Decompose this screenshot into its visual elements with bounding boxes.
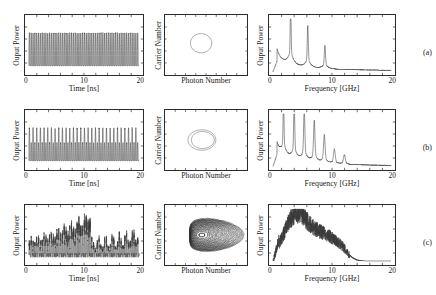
- y-axis-label: Ouput Power: [254, 109, 266, 171]
- panel-label-b: (b): [423, 143, 432, 152]
- plot-area: [268, 14, 396, 76]
- y-axis-label: Ouput Power: [10, 204, 22, 266]
- y-axis-label: Ouput Power: [254, 204, 266, 266]
- x-axis-title: Time [ns]: [24, 84, 144, 93]
- plot-area: [24, 14, 144, 76]
- x-axis-title: Time [ns]: [24, 179, 144, 188]
- panel-label-a: (a): [423, 48, 432, 57]
- x-axis: Photon Number: [164, 171, 248, 189]
- plot-area: [164, 204, 248, 266]
- x-axis: 0 10 20 Frequency [GHz]: [268, 76, 396, 94]
- x-axis: 0 10 20 Time [ns]: [24, 266, 144, 284]
- x-axis: Photon Number: [164, 76, 248, 94]
- x-axis: 0 10 20 Time [ns]: [24, 76, 144, 94]
- figure-panel-grid: Ouput Power 0 10 20 Time [ns] Carrier Nu…: [0, 0, 436, 295]
- rf-spectrum-plot-a: Ouput Power 0 10 20 Frequency [GHz]: [252, 8, 400, 103]
- time-series-plot-b: Ouput Power 0 10 20 Time [ns]: [8, 103, 148, 198]
- x-axis-title: Frequency [GHz]: [268, 84, 396, 93]
- x-axis: 0 10 20 Time [ns]: [24, 171, 144, 189]
- x-axis: 0 10 20 Frequency [GHz]: [268, 266, 396, 284]
- rf-spectrum-plot-c: Ouput Power 0 10 20 Frequency [GHz]: [252, 198, 400, 293]
- phase-portrait-plot-b: Carrier Number Photon Number: [150, 103, 250, 198]
- plot-area: [164, 14, 248, 76]
- x-axis: 0 10 20 Frequency [GHz]: [268, 171, 396, 189]
- plot-area: [164, 109, 248, 171]
- x-axis-title: Photon Number: [164, 266, 248, 275]
- panel-label-c: (c): [423, 238, 432, 247]
- y-axis-label: Carrier Number: [152, 204, 164, 266]
- time-series-plot-c: Ouput Power 0 10 20 Time [ns]: [8, 198, 148, 293]
- x-axis: Photon Number: [164, 266, 248, 284]
- figure-row-b: Ouput Power 0 10 20 Time [ns] Carrier Nu…: [0, 103, 436, 198]
- plot-area: [268, 204, 396, 266]
- x-axis-title: Frequency [GHz]: [268, 274, 396, 283]
- plot-area: [24, 204, 144, 266]
- rf-spectrum-plot-b: Ouput Power 0 10 20 Frequency [GHz]: [252, 103, 400, 198]
- figure-row-a: Ouput Power 0 10 20 Time [ns] Carrier Nu…: [0, 8, 436, 103]
- x-axis-title: Frequency [GHz]: [268, 179, 396, 188]
- x-axis-title: Photon Number: [164, 171, 248, 180]
- y-axis-label: Ouput Power: [10, 109, 22, 171]
- y-axis-label: Ouput Power: [10, 14, 22, 76]
- plot-area: [24, 109, 144, 171]
- phase-portrait-plot-a: Carrier Number Photon Number: [150, 8, 250, 103]
- y-axis-label: Carrier Number: [152, 14, 164, 76]
- phase-portrait-plot-c: Carrier Number Photon Number: [150, 198, 250, 293]
- y-axis-label: Ouput Power: [254, 14, 266, 76]
- figure-row-c: Ouput Power 0 10 20 Time [ns] Carrier Nu…: [0, 198, 436, 293]
- plot-area: [268, 109, 396, 171]
- x-axis-title: Time [ns]: [24, 274, 144, 283]
- x-axis-title: Photon Number: [164, 76, 248, 85]
- y-axis-label: Carrier Number: [152, 109, 164, 171]
- time-series-plot-a: Ouput Power 0 10 20 Time [ns]: [8, 8, 148, 103]
